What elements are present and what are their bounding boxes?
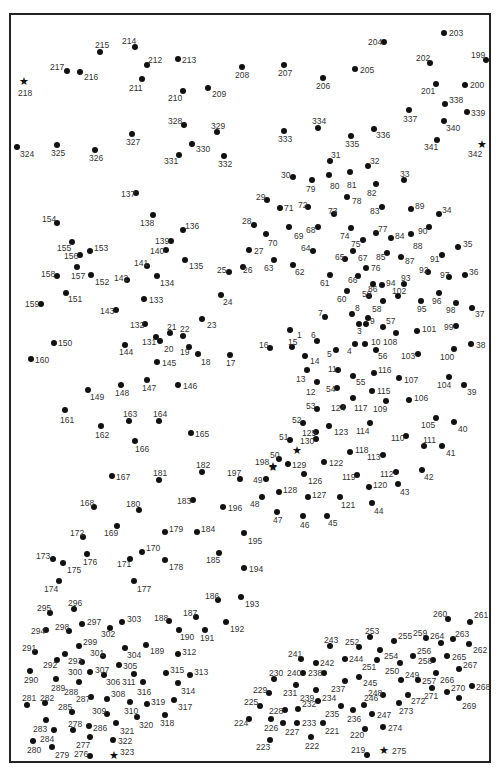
star-icon: ★ — [292, 445, 302, 456]
dot-number-label: 322 — [118, 737, 132, 746]
dot-number-label: 52 — [292, 416, 301, 425]
dot-number-label: 10 — [371, 338, 380, 347]
dot-number-label: 104 — [437, 381, 451, 390]
dot-number-label: 263 — [455, 630, 469, 639]
dot-number-label: 330 — [196, 145, 210, 154]
dot-marker — [314, 379, 320, 385]
dot-number-label: 248 — [368, 689, 382, 698]
dot-number-label: 267 — [463, 661, 477, 670]
dot-number-label: 236 — [347, 715, 361, 724]
dot-number-label: 339 — [471, 109, 485, 118]
dot-marker — [43, 717, 49, 723]
dot-number-label: 47 — [273, 516, 282, 525]
dot-number-label: 327 — [126, 138, 140, 147]
star-icon: ★ — [379, 745, 389, 756]
dot-number-label: 67 — [358, 254, 367, 263]
dot-number-label: 314 — [181, 687, 195, 696]
dot-number-label: 228 — [269, 707, 283, 716]
dot-number-label: 210 — [168, 94, 182, 103]
dot-marker — [388, 235, 394, 241]
dot-marker — [300, 513, 306, 519]
dot-number-label: 306 — [106, 678, 120, 687]
dot-marker — [455, 244, 461, 250]
dot-number-label: 137 — [121, 190, 135, 199]
dot-number-label: 48 — [250, 500, 259, 509]
dot-marker — [28, 356, 34, 362]
dot-marker — [462, 82, 468, 88]
dot-number-label: 223 — [256, 743, 270, 752]
dot-number-label: 185 — [206, 556, 220, 565]
dot-number-label: 273 — [399, 707, 413, 716]
dot-number-label: 245 — [363, 679, 377, 688]
dot-number-label: 22 — [180, 325, 189, 334]
dot-marker — [326, 423, 332, 429]
dot-number-label: 227 — [285, 728, 299, 737]
dot-number-label: 313 — [194, 668, 208, 677]
dot-number-label: 82 — [367, 189, 376, 198]
dot-number-label: 257 — [422, 677, 436, 686]
dot-number-label: 217 — [50, 63, 64, 72]
dot-number-label: 321 — [120, 727, 134, 736]
dot-marker — [51, 340, 57, 346]
dot-number-label: 262 — [473, 646, 487, 655]
dot-number-label: 301 — [90, 649, 104, 658]
dot-marker — [226, 269, 232, 275]
dot-number-label: 211 — [129, 84, 143, 93]
dot-marker — [315, 698, 321, 704]
dot-marker — [396, 375, 402, 381]
dot-number-label: 18 — [201, 358, 210, 367]
dot-number-label: 341 — [424, 143, 438, 152]
dot-number-label: 37 — [475, 310, 484, 319]
dot-number-label: 208 — [235, 71, 249, 80]
dot-marker — [363, 265, 369, 271]
dot-number-label: 114 — [356, 427, 370, 436]
dot-marker — [342, 656, 348, 662]
dot-number-label: 226 — [264, 724, 278, 733]
dot-number-label: 26 — [243, 266, 252, 275]
star-icon: ★ — [268, 461, 278, 472]
dot-number-label: 160 — [35, 356, 49, 365]
dot-number-label: 1 — [297, 331, 302, 340]
dot-marker — [182, 257, 188, 263]
dot-number-label: 49 — [253, 476, 262, 485]
dot-number-label: 105 — [421, 421, 435, 430]
dot-marker — [139, 549, 145, 555]
dot-number-label: 329 — [211, 122, 225, 131]
dot-number-label: 295 — [37, 604, 51, 613]
dot-number-label: 141 — [134, 259, 148, 268]
dot-number-label: 113 — [367, 453, 381, 462]
dot-number-label: 165 — [195, 430, 209, 439]
dot-number-label: 325 — [51, 149, 65, 158]
dot-marker — [62, 651, 68, 657]
dot-number-label: 35 — [463, 240, 472, 249]
dot-number-label: 128 — [283, 486, 297, 495]
dot-marker — [64, 68, 70, 74]
dot-marker — [310, 248, 316, 254]
dot-marker — [469, 683, 475, 689]
dot-number-label: 336 — [376, 131, 390, 140]
dot-number-label: 342 — [468, 150, 482, 159]
dot-number-label: 108 — [383, 338, 397, 347]
dot-marker — [371, 370, 377, 376]
dot-marker — [187, 672, 193, 678]
dot-marker — [352, 341, 358, 347]
dot-marker — [286, 224, 292, 230]
dot-marker — [119, 619, 125, 625]
dot-number-label: 311 — [122, 678, 136, 687]
dot-number-label: 318 — [160, 719, 174, 728]
dot-number-label: 304 — [127, 651, 141, 660]
dot-number-label: 229 — [253, 686, 267, 695]
dot-number-label: 258 — [418, 657, 432, 666]
dot-number-label: 124 — [331, 404, 345, 413]
dot-number-label: 106 — [414, 394, 428, 403]
dot-number-label: 317 — [178, 703, 192, 712]
dot-number-label: 194 — [249, 565, 263, 574]
dot-number-label: 276 — [74, 750, 88, 759]
dot-number-label: 176 — [83, 558, 97, 567]
dot-number-label: 202 — [416, 54, 430, 63]
dot-number-label: 183 — [177, 497, 191, 506]
dot-number-label: 142 — [114, 274, 128, 283]
dot-number-label: 225 — [244, 698, 258, 707]
dot-marker — [391, 638, 397, 644]
dot-number-label: 4 — [347, 347, 352, 356]
